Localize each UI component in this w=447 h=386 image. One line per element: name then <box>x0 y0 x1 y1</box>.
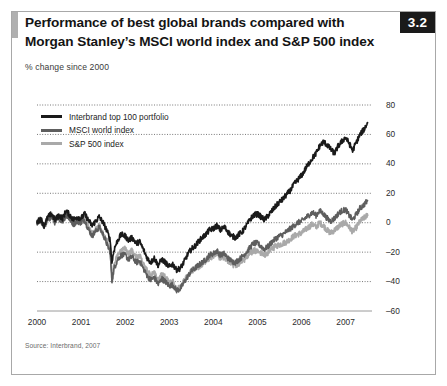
x-axis-tick-label: 2003 <box>149 317 189 327</box>
legend-item-sp500[interactable]: S&P 500 index <box>41 137 169 151</box>
y-axis-tick-label: 40 <box>386 158 395 168</box>
figure-number-badge: 3.2 <box>400 12 435 33</box>
y-axis-tick-label: –60 <box>386 306 400 316</box>
legend-label-interbrand: Interbrand top 100 portfolio <box>69 112 169 122</box>
y-axis-tick-label: 0 <box>386 217 391 227</box>
x-axis-tick-label: 2006 <box>281 317 321 327</box>
y-axis-tick-label: –40 <box>386 276 400 286</box>
legend-item-msci[interactable]: MSCI world index <box>41 124 169 138</box>
x-axis-tick-label: 2002 <box>105 317 145 327</box>
source-note: Source: Interbrand, 2007 <box>25 342 100 349</box>
x-axis-tick-label: 2001 <box>61 317 101 327</box>
x-axis-tick-label: 2000 <box>17 317 57 327</box>
chart-subtitle: % change since 2000 <box>25 62 109 72</box>
y-axis-tick-label: 20 <box>386 188 395 198</box>
y-axis-tick-label: 80 <box>386 100 395 110</box>
legend-label-msci: MSCI world index <box>69 125 134 135</box>
y-axis-tick-label: 60 <box>386 129 395 139</box>
chart-legend: Interbrand top 100 portfolio MSCI world … <box>41 110 169 151</box>
y-axis-tick-label: –20 <box>386 247 400 257</box>
legend-swatch-interbrand <box>41 115 62 118</box>
x-axis-tick-label: 2004 <box>193 317 233 327</box>
legend-swatch-sp500 <box>41 142 62 145</box>
page-title: Performance of best global brands compar… <box>25 14 365 51</box>
legend-item-interbrand[interactable]: Interbrand top 100 portfolio <box>41 110 169 124</box>
figure-container: Performance of best global brands compar… <box>0 0 447 386</box>
legend-swatch-msci <box>41 129 62 132</box>
title-accent-bar <box>12 12 18 38</box>
title-line-1: Performance of best global brands compar… <box>25 14 365 33</box>
x-axis-tick-label: 2007 <box>326 317 366 327</box>
x-axis-tick-label: 2005 <box>237 317 277 327</box>
legend-label-sp500: S&P 500 index <box>69 139 124 149</box>
title-line-2: Morgan Stanley’s MSCI world index and S&… <box>25 33 365 52</box>
